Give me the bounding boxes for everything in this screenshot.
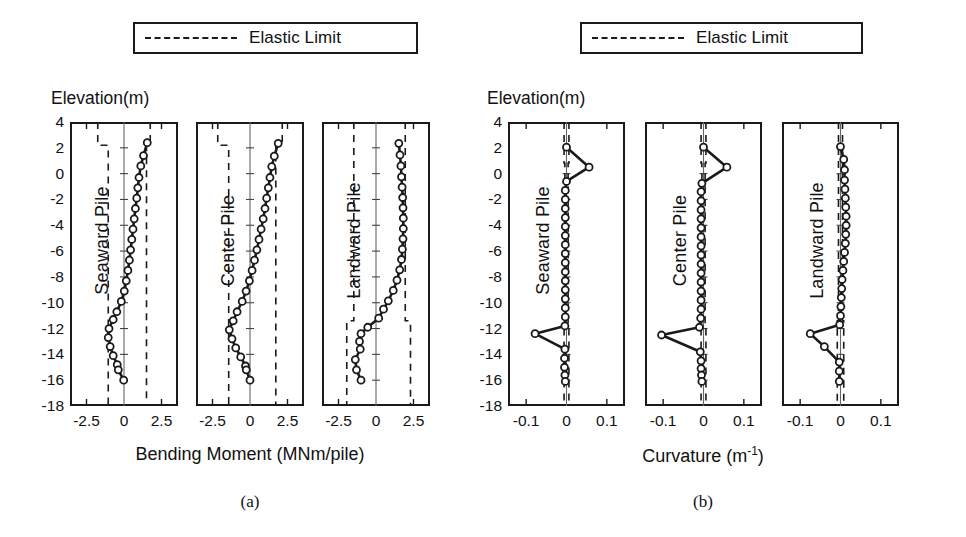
legend-dash-icon-b <box>592 37 684 39</box>
yaxis-title-b: Elevation(m) <box>487 88 585 109</box>
ytick-label: -12 <box>28 320 64 338</box>
xtick-label: -0.1 <box>650 412 677 430</box>
ytick-label: 0 <box>466 165 502 183</box>
ytick-label: -12 <box>466 320 502 338</box>
ytick-label: 2 <box>466 139 502 157</box>
legend-label-a: Elastic Limit <box>249 28 341 48</box>
pile-label-seaward-pile: Seaward Pile <box>533 161 554 321</box>
ytick-label: -10 <box>28 294 64 312</box>
ytick-label: -16 <box>28 371 64 389</box>
xtick-label: 0 <box>699 412 708 430</box>
legend-label-b: Elastic Limit <box>696 28 788 48</box>
xtick-label: -0.1 <box>787 412 814 430</box>
pile-label-seaward-pile: Seaward Pile <box>92 161 113 321</box>
ytick-label: -14 <box>466 345 502 363</box>
xtick-label: 0.1 <box>870 412 892 430</box>
legend-box-a: Elastic Limit <box>133 22 418 54</box>
plot-box-seaward-pile <box>508 122 625 406</box>
panel-caption-b: (b) <box>508 492 898 512</box>
ytick-label: -8 <box>466 268 502 286</box>
xtick-label: -2.5 <box>73 412 100 430</box>
xtick-label: 0 <box>246 412 255 430</box>
ytick-label: 0 <box>28 165 64 183</box>
figure-root: Elastic Limit Elastic Limit Elevation(m)… <box>0 0 966 537</box>
ytick-label: -6 <box>28 242 64 260</box>
pile-label-landward-pile: Landward Pile <box>807 161 828 321</box>
panel-caption-a: (a) <box>70 492 430 512</box>
xtick-label: 2.5 <box>277 412 299 430</box>
ytick-label: 2 <box>28 139 64 157</box>
xaxis-title-b: Curvature (m-1) <box>508 444 898 467</box>
xtick-label: 2.5 <box>403 412 425 430</box>
plot-box-center-pile <box>196 122 304 406</box>
xtick-label: -2.5 <box>325 412 352 430</box>
pile-label-center-pile: Center Pile <box>670 161 691 321</box>
ytick-label: 4 <box>466 113 502 131</box>
xtick-label: 2.5 <box>151 412 173 430</box>
plot-box-landward-pile <box>782 122 899 406</box>
xtick-label: 0 <box>562 412 571 430</box>
legend-dash-icon-a <box>145 37 237 39</box>
ytick-label: -8 <box>28 268 64 286</box>
xtick-label: -2.5 <box>199 412 226 430</box>
plot-box-center-pile <box>645 122 762 406</box>
ytick-label: 4 <box>28 113 64 131</box>
xtick-label: 0 <box>836 412 845 430</box>
xtick-label: 0 <box>372 412 381 430</box>
ytick-label: -18 <box>28 397 64 415</box>
xtick-label: 0 <box>120 412 129 430</box>
ytick-label: -2 <box>28 190 64 208</box>
pile-label-landward-pile: Landward Pile <box>344 161 365 321</box>
xtick-label: -0.1 <box>513 412 540 430</box>
ytick-label: -6 <box>466 242 502 260</box>
xaxis-title-b-main: Curvature (m <box>642 446 747 466</box>
plot-box-landward-pile <box>322 122 430 406</box>
xaxis-title-b-tail: ) <box>758 446 764 466</box>
ytick-label: -4 <box>466 216 502 234</box>
xtick-label: 0.1 <box>596 412 618 430</box>
plot-box-seaward-pile <box>70 122 178 406</box>
pile-label-center-pile: Center Pile <box>218 161 239 321</box>
ytick-label: -4 <box>28 216 64 234</box>
ytick-label: -18 <box>466 397 502 415</box>
legend-box-b: Elastic Limit <box>580 22 863 54</box>
ytick-label: -16 <box>466 371 502 389</box>
ytick-label: -2 <box>466 190 502 208</box>
ytick-label: -14 <box>28 345 64 363</box>
ytick-label: -10 <box>466 294 502 312</box>
xaxis-title-a: Bending Moment (MNm/pile) <box>70 444 430 465</box>
xaxis-title-b-superscript: -1 <box>747 444 758 458</box>
yaxis-title-a: Elevation(m) <box>51 88 149 109</box>
xtick-label: 0.1 <box>733 412 755 430</box>
